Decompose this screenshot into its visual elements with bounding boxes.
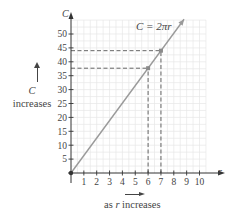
y-tick-label: 45 (58, 43, 68, 53)
x-tick-label: 2 (94, 177, 99, 187)
x-tick-label: 8 (171, 177, 176, 187)
x-tick-label: 4 (120, 177, 125, 187)
origin-point (69, 171, 73, 175)
side-increases-label: increases (2, 97, 62, 110)
x-tick-label: 10 (195, 177, 205, 187)
x-tick-label: 6 (146, 177, 151, 187)
x-tick-label: 7 (159, 177, 164, 187)
right-arrow-icon (125, 192, 145, 198)
x-tick-label: 3 (107, 177, 112, 187)
x-axis-label: r (218, 166, 222, 177)
side-c-label: C (2, 84, 62, 97)
y-tick-label: 50 (58, 29, 68, 39)
y-direction-annotation: C increases (2, 62, 62, 110)
highlighted-point (146, 66, 150, 70)
bottom-as-label: as (104, 199, 115, 210)
highlighted-point (159, 49, 163, 53)
y-axis-arrow-icon (69, 12, 74, 19)
equation-label: C = 2πr (136, 20, 172, 32)
x-tick-label: 1 (81, 177, 86, 187)
y-axis-label: C (62, 8, 69, 19)
x-tick-label: 9 (184, 177, 189, 187)
up-arrow-icon (2, 62, 62, 84)
y-tick-label: 5 (62, 154, 67, 164)
y-tick-label: 10 (58, 141, 68, 151)
y-tick-label: 20 (58, 113, 68, 123)
bottom-increases-label: increases (119, 199, 160, 210)
x-tick-label: 5 (133, 177, 138, 187)
x-direction-annotation: as r increases (104, 199, 161, 210)
y-tick-label: 15 (58, 127, 68, 137)
